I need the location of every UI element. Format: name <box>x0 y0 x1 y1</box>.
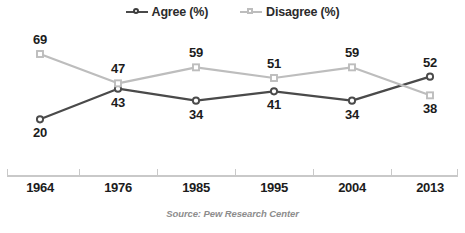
x-axis-label: 2013 <box>416 180 444 195</box>
x-axis-label: 1985 <box>182 180 210 195</box>
series-line-agree <box>40 77 430 120</box>
value-label: 59 <box>189 45 203 60</box>
value-label: 43 <box>111 95 125 110</box>
source-note: Source: Pew Research Center <box>0 208 465 219</box>
data-point-marker[interactable] <box>349 64 355 70</box>
data-point-marker[interactable] <box>37 51 43 57</box>
data-point-marker[interactable] <box>37 116 43 122</box>
plot-area <box>0 0 465 178</box>
x-axis-tick <box>235 169 236 175</box>
x-axis-labels: 196419761985199520042013 <box>0 180 465 200</box>
value-label: 34 <box>189 107 203 122</box>
data-point-marker[interactable] <box>349 98 355 104</box>
data-point-marker[interactable] <box>427 92 433 98</box>
chart-container: Agree (%) Disagree (%) 20433441345269475… <box>0 0 465 233</box>
x-axis-tick <box>313 169 314 175</box>
value-label: 69 <box>33 32 47 47</box>
value-label: 38 <box>423 101 437 116</box>
value-label: 20 <box>33 125 47 140</box>
value-label: 34 <box>345 107 359 122</box>
value-label: 47 <box>111 61 125 76</box>
x-axis-tick <box>157 169 158 175</box>
data-point-marker[interactable] <box>271 75 277 81</box>
x-axis-tick <box>7 169 8 175</box>
series-line-disagree <box>40 54 430 95</box>
x-axis-label: 1995 <box>260 180 288 195</box>
value-label: 52 <box>423 55 437 70</box>
data-point-marker[interactable] <box>271 88 277 94</box>
data-point-marker[interactable] <box>193 64 199 70</box>
x-axis-label: 1964 <box>26 180 54 195</box>
plot-svg <box>0 0 465 178</box>
data-point-marker[interactable] <box>427 74 433 80</box>
data-point-marker[interactable] <box>115 80 121 86</box>
value-label: 59 <box>345 45 359 60</box>
x-axis-label: 2004 <box>338 180 366 195</box>
x-axis-tick <box>79 169 80 175</box>
x-axis-tick <box>457 169 458 175</box>
data-point-marker[interactable] <box>193 98 199 104</box>
x-axis-line <box>7 175 458 177</box>
x-axis-tick <box>391 169 392 175</box>
x-axis-label: 1976 <box>104 180 132 195</box>
value-label: 41 <box>267 97 281 112</box>
value-label: 51 <box>267 56 281 71</box>
